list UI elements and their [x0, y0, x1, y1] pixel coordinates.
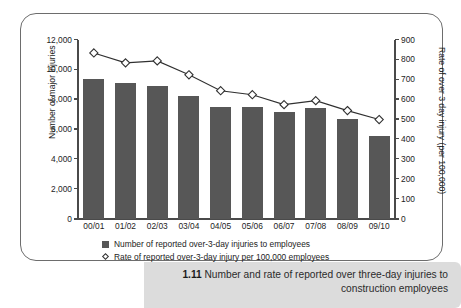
legend-label-bars: Number of reported over-3-day injuries t… [114, 240, 310, 248]
y-axis-right-tick-label: 800 [401, 56, 415, 64]
bar-07-08 [305, 108, 326, 219]
figure-caption-number: 1.11 [182, 269, 201, 280]
y-axis-right-tick [395, 178, 399, 179]
chart-frame: Number of major injuries Rate of over 3 … [20, 13, 443, 261]
y-axis-right-tick-label: 700 [401, 76, 415, 84]
rate-marker-00-01 [90, 49, 98, 57]
x-axis-label-00-01: 00/01 [83, 221, 104, 231]
y-axis-right-tick [395, 79, 399, 80]
rate-marker-08-09 [343, 107, 351, 115]
y-axis-left-tick [74, 128, 78, 129]
y-axis-right-tick-label: 600 [401, 95, 415, 103]
y-axis-left-tick-label: 12,000 [46, 36, 72, 44]
x-axis-label-02-03: 02/03 [147, 221, 168, 231]
rate-marker-02-03 [153, 57, 161, 65]
y-axis-right-tick-label: 300 [401, 155, 415, 163]
figure-caption: 1.11 Number and rate of reported over th… [156, 268, 448, 297]
y-axis-left-tick [74, 69, 78, 70]
y-axis-left-tick-label: 2,000 [51, 185, 72, 193]
x-axis-label-07-08: 07/08 [305, 221, 326, 231]
y-axis-right-tick-label: 400 [401, 135, 415, 143]
y-axis-right-tick-label: 900 [401, 36, 415, 44]
bar-02-03 [147, 86, 168, 220]
rate-marker-09-10 [375, 115, 383, 123]
rate-marker-05-06 [248, 91, 256, 99]
plot-inner: 02,0004,0006,0008,00010,00012,000 010020… [78, 40, 395, 219]
bar-01-02 [115, 83, 136, 219]
bar-09-10 [369, 136, 390, 219]
y-axis-left-tick-label: 10,000 [46, 66, 72, 74]
rate-line-path [94, 53, 379, 120]
y-axis-right-tick [395, 118, 399, 119]
legend-item-bars: Number of reported over-3-day injuries t… [78, 238, 418, 251]
legend-label-line: Rate of reported over-3-day injury per 1… [114, 253, 329, 261]
rate-marker-07-08 [312, 97, 320, 105]
x-axis-label-01-02: 01/02 [115, 221, 136, 231]
open-diamond-icon [102, 253, 110, 261]
bar-08-09 [337, 119, 358, 219]
y-axis-left-tick [74, 98, 78, 99]
y-axis-right-tick [395, 138, 399, 139]
x-axis-label-06-07: 06/07 [274, 221, 295, 231]
y-axis-left-tick-label: 8,000 [51, 95, 72, 103]
y-axis-right-tick-label: 500 [401, 115, 415, 123]
rate-marker-06-07 [280, 101, 288, 109]
figure-caption-band: 1.11 Number and rate of reported over th… [144, 262, 461, 308]
x-axis-label-05-06: 05/06 [242, 221, 263, 231]
y-axis-left-tick-label: 4,000 [51, 155, 72, 163]
y-axis-right-tick [395, 59, 399, 60]
x-axis-label-03-04: 03/04 [178, 221, 199, 231]
y-axis-left-tick-label: 6,000 [51, 125, 72, 133]
y-axis-right-tick [395, 218, 399, 219]
x-axis-category-labels: 00/0101/0202/0303/0404/0505/0606/0707/08… [78, 221, 395, 235]
x-axis-label-08-09: 08/09 [337, 221, 358, 231]
bar-05-06 [242, 107, 263, 219]
rate-marker-01-02 [121, 59, 129, 67]
bar-03-04 [178, 96, 199, 219]
y-axis-left-tick [74, 188, 78, 189]
y-axis-right-title: Rate of over 3 day injury (per 100,000) [437, 47, 447, 194]
filled-square-icon [102, 241, 109, 248]
y-axis-left-tick-label: 0 [67, 215, 72, 223]
y-axis-right-tick [395, 98, 399, 99]
bar-00-01 [83, 79, 104, 219]
chart-legend: Number of reported over-3-day injuries t… [78, 238, 418, 263]
y-axis-right-tick [395, 158, 399, 159]
y-axis-right-line [394, 40, 395, 219]
x-axis-label-09-10: 09/10 [369, 221, 390, 231]
y-axis-left-tick [74, 218, 78, 219]
y-axis-right-tick [395, 198, 399, 199]
rate-marker-03-04 [185, 71, 193, 79]
y-axis-right-tick-label: 0 [401, 215, 406, 223]
x-axis-label-04-05: 04/05 [210, 221, 231, 231]
plot-area: 02,0004,0006,0008,00010,00012,000 010020… [78, 40, 395, 219]
y-axis-left-line [77, 40, 78, 219]
bar-04-05 [210, 107, 231, 219]
figure-caption-text: Number and rate of reported over three-d… [205, 269, 449, 294]
y-axis-left-tick [74, 39, 78, 40]
y-axis-right-tick-label: 200 [401, 175, 415, 183]
y-axis-right-tick [395, 39, 399, 40]
rate-marker-04-05 [217, 87, 225, 95]
figure-container: Number of major injuries Rate of over 3 … [0, 0, 461, 308]
y-axis-right-tick-label: 100 [401, 195, 415, 203]
bar-06-07 [274, 112, 295, 219]
y-axis-left-tick [74, 158, 78, 159]
